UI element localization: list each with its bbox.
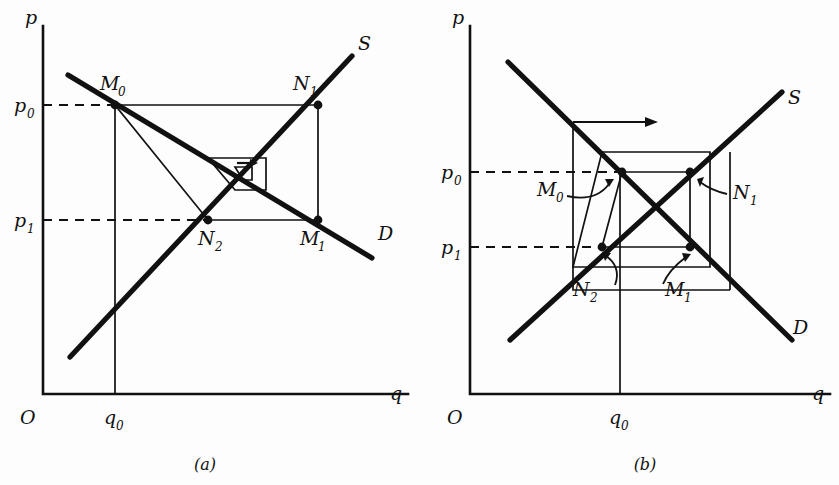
panel-a-y-axis-label: p bbox=[25, 6, 37, 28]
svg-text:2: 2 bbox=[214, 240, 223, 254]
svg-text:0: 0 bbox=[621, 419, 629, 433]
svg-text:1: 1 bbox=[27, 222, 35, 236]
svg-text:p: p bbox=[441, 236, 453, 258]
panel-b-leader-N2 bbox=[602, 252, 617, 285]
panel-b-leader-N1 bbox=[697, 177, 727, 194]
svg-text:q: q bbox=[104, 406, 116, 428]
panel-a-axes bbox=[43, 26, 408, 394]
panel-a-x-axis-label: q bbox=[390, 382, 402, 404]
panel-a-supply-label: S bbox=[358, 32, 371, 54]
panel-b-label-M0: M 0 bbox=[536, 178, 564, 205]
svg-text:2: 2 bbox=[589, 291, 598, 305]
cobweb-figure: p q O p 0 p 1 q 0 S D M 0 N 1 N 2 bbox=[0, 0, 839, 485]
panel-a-demand-label: D bbox=[377, 222, 393, 244]
panel-b-tick-p0: p 0 bbox=[441, 161, 462, 188]
panel-a-tick-p0: p 0 bbox=[14, 94, 35, 121]
svg-text:M: M bbox=[299, 227, 320, 249]
svg-text:1: 1 bbox=[454, 249, 462, 263]
panel-a-point-M1 bbox=[314, 216, 323, 225]
panel-b-point-M0 bbox=[618, 168, 627, 177]
panel-b-x-axis-label: q bbox=[812, 382, 824, 404]
panel-a-point-M0 bbox=[111, 101, 120, 110]
panel-a-label-M1: M 1 bbox=[299, 227, 326, 254]
panel-b-caption: (b) bbox=[634, 455, 657, 474]
panel-b-supply-label: S bbox=[788, 86, 801, 108]
svg-text:0: 0 bbox=[118, 85, 126, 99]
panel-b-origin-label: O bbox=[447, 406, 463, 428]
svg-text:N: N bbox=[732, 181, 751, 203]
panel-b-tick-q0: q 0 bbox=[609, 406, 629, 433]
panel-b-supply-curve bbox=[510, 92, 782, 340]
svg-text:0: 0 bbox=[556, 191, 564, 205]
panel-b-demand-label: D bbox=[792, 316, 808, 338]
svg-text:N: N bbox=[292, 72, 311, 94]
panel-a-caption: (a) bbox=[194, 455, 216, 474]
panel-a: p q O p 0 p 1 q 0 S D M 0 N 1 N 2 bbox=[14, 6, 408, 474]
panel-a-point-N1 bbox=[314, 101, 323, 110]
panel-a-tick-p1: p 1 bbox=[14, 209, 35, 236]
svg-text:N: N bbox=[572, 278, 591, 300]
svg-text:M: M bbox=[664, 278, 685, 300]
svg-text:M: M bbox=[536, 178, 557, 200]
svg-text:p: p bbox=[14, 94, 26, 116]
panel-b-y-axis-label: p bbox=[452, 6, 464, 28]
panel-b-point-N1 bbox=[686, 168, 695, 177]
panel-b-point-M1 bbox=[686, 243, 695, 252]
svg-text:q: q bbox=[609, 406, 621, 428]
svg-text:0: 0 bbox=[116, 419, 124, 433]
svg-text:0: 0 bbox=[27, 107, 35, 121]
figure-canvas: p q O p 0 p 1 q 0 S D M 0 N 1 N 2 bbox=[0, 0, 839, 485]
svg-text:p: p bbox=[14, 209, 26, 231]
panel-b: p q O p 0 p 1 q 0 S D M 0 N 1 N 2 bbox=[441, 6, 830, 474]
panel-a-tick-q0: q 0 bbox=[104, 406, 124, 433]
panel-a-label-N1: N 1 bbox=[292, 72, 318, 99]
panel-b-tick-p1: p 1 bbox=[441, 236, 462, 263]
panel-a-origin-label: O bbox=[20, 406, 36, 428]
panel-b-divergence-arrowhead bbox=[645, 117, 658, 127]
svg-text:1: 1 bbox=[684, 291, 692, 305]
svg-text:p: p bbox=[441, 161, 453, 183]
panel-b-label-M1: M 1 bbox=[664, 278, 692, 305]
svg-text:N: N bbox=[197, 227, 216, 249]
panel-a-label-N2: N 2 bbox=[197, 227, 223, 254]
panel-b-point-N2 bbox=[598, 243, 607, 252]
panel-b-label-N1: N 1 bbox=[732, 181, 758, 208]
svg-text:1: 1 bbox=[318, 240, 326, 254]
svg-text:0: 0 bbox=[454, 174, 462, 188]
svg-text:1: 1 bbox=[310, 85, 318, 99]
svg-text:1: 1 bbox=[750, 194, 758, 208]
panel-a-point-N2 bbox=[204, 216, 213, 225]
panel-b-label-N2: N 2 bbox=[572, 278, 598, 305]
svg-text:M: M bbox=[99, 72, 120, 94]
